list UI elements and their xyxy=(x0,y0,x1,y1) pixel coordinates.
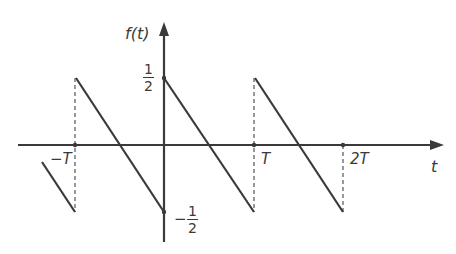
x-axis-label: t xyxy=(431,159,437,175)
y-axis-arrow-icon xyxy=(159,22,169,36)
fraction-denominator: 2 xyxy=(188,220,197,235)
tick-2T xyxy=(341,143,345,147)
y-tick-label-neg-sign: − xyxy=(174,212,187,227)
fraction-numerator: 1 xyxy=(143,62,154,77)
sawtooth-segment-partial xyxy=(42,162,75,212)
x-tick-label-neg-T: −T xyxy=(50,152,72,167)
tick-neg-half xyxy=(162,210,166,214)
tick-half xyxy=(162,76,166,80)
y-tick-label-neg-half: 1 2 xyxy=(187,204,198,235)
y-axis-label: f(t) xyxy=(125,26,149,42)
fraction-denominator: 2 xyxy=(144,78,153,93)
fraction-numerator: 1 xyxy=(187,204,198,219)
sawtooth-diagram: f(t) t −T T 2T 1 2 − 1 2 xyxy=(0,0,456,254)
plot-canvas xyxy=(0,0,456,254)
x-axis-arrow-icon xyxy=(430,140,444,150)
x-tick-label-2T: 2T xyxy=(350,152,369,167)
x-tick-label-T: T xyxy=(261,152,270,167)
y-tick-label-half: 1 2 xyxy=(143,62,154,93)
tick-T xyxy=(252,143,256,147)
tick-neg-T xyxy=(73,143,77,147)
